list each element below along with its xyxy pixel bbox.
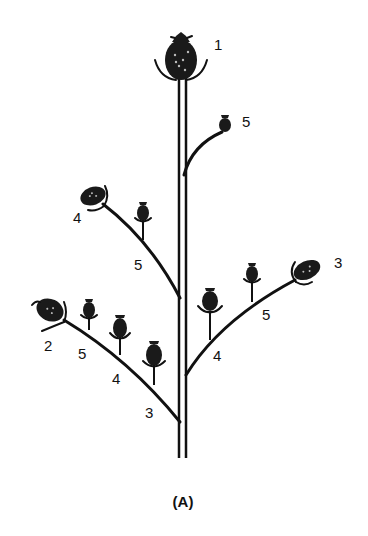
terminal-flower-head-icon xyxy=(155,32,207,80)
small-flower-head-icon xyxy=(244,263,260,282)
flower-head-icon xyxy=(33,294,68,326)
label-main-head: 1 xyxy=(214,36,222,53)
label-lower-right-mid: 5 xyxy=(262,306,270,323)
label-lower-left-tip: 2 xyxy=(44,337,52,354)
figure-caption: (A) xyxy=(173,493,194,510)
small-flower-head-icon xyxy=(198,288,222,312)
label-lower-right-tip: 3 xyxy=(334,254,342,271)
small-flower-head-icon xyxy=(81,299,97,318)
lower-left-branch xyxy=(32,294,180,422)
label-lower-right-base: 4 xyxy=(213,347,221,364)
main-stem xyxy=(179,78,186,458)
label-lower-left-mid: 4 xyxy=(112,370,120,387)
small-flower-head-icon xyxy=(135,202,151,221)
small-flower-head-icon xyxy=(219,115,231,132)
small-flower-head-icon xyxy=(143,341,165,366)
label-lower-left-upper: 5 xyxy=(78,345,86,362)
label-upper-left-tip: 4 xyxy=(73,209,81,226)
label-lower-left-base: 3 xyxy=(145,404,153,421)
lower-right-branch xyxy=(186,256,323,375)
label-upper-right-branch: 5 xyxy=(242,113,250,130)
upper-right-branch xyxy=(184,115,231,175)
small-flower-head-icon xyxy=(110,315,130,338)
label-upper-left-mid: 5 xyxy=(134,256,142,273)
inflorescence-diagram: 1 5 4 5 3 5 4 2 5 4 3 (A) xyxy=(0,0,368,536)
upper-left-branch xyxy=(78,183,180,298)
